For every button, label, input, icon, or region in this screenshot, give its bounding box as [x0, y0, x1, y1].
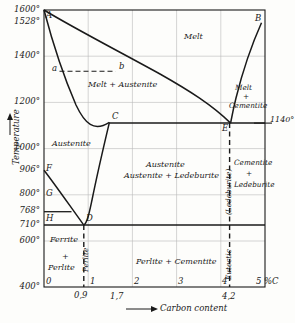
point-label-C: C: [112, 112, 119, 121]
y-tick-768: 768°: [4, 206, 40, 215]
region-ledeburite-vertical: (Ledeburite): [225, 169, 232, 215]
austenite-boundary-cd: [84, 122, 110, 225]
region-austenite-ledeburite: Austenite + Ledeburite: [124, 172, 219, 180]
x-axis-arrow-icon: [126, 306, 158, 312]
region-ferrite-perlite: Perlite: [48, 264, 75, 272]
region-melt-austenite: Melt + Austenite: [88, 81, 157, 89]
x-special-tick-09: 0,9: [74, 291, 88, 300]
y-tick-906: 906°: [4, 165, 40, 174]
region-austenite-left: Austenite: [52, 140, 91, 148]
y-tick-1400: 1400°: [4, 51, 40, 60]
region-austenite-right: Austenite: [146, 161, 185, 169]
point-label-D: D: [86, 214, 93, 223]
point-label-b: b: [119, 62, 124, 71]
point-label-G: G: [46, 189, 53, 198]
region-perlite-cementite: Perlite + Cementite: [136, 258, 217, 266]
y-tick-710: 710°: [4, 220, 40, 229]
x-tick-0: 0: [46, 277, 51, 286]
region-cementite-ledeburite-line1: Cementite: [234, 159, 272, 166]
region-melt-cementite-plus: +: [243, 93, 249, 100]
x-tick-2: 2: [134, 277, 139, 286]
y-tick-1600: 1600°: [4, 5, 40, 14]
point-label-B: B: [255, 14, 261, 23]
x-tick-5: 5: [256, 277, 261, 286]
point-label-E: E: [222, 124, 228, 133]
y-tick-600: 600°: [4, 236, 40, 245]
x-special-tick-17: 1,7: [110, 292, 124, 301]
region-cementite-ledeburite-plus: +: [246, 170, 252, 177]
phase-diagram-figure: 1600° 1528° 1400° 1200° 1000° 906° 800° …: [0, 0, 295, 323]
region-cementite-ledeburite-line2: Ledeburite: [234, 181, 275, 188]
x-axis-title: Carbon content: [160, 304, 227, 313]
region-melt-cementite-line2: Cementite: [229, 102, 267, 109]
x-axis-unit: %C: [264, 277, 279, 286]
x-special-tick-42: 4,2: [222, 292, 236, 301]
y-tick-400: 400°: [4, 282, 40, 291]
liquidus-curve-ae: [44, 10, 231, 123]
y-tick-800: 800°: [4, 189, 40, 198]
annotation-temp-1140: 1140°: [270, 116, 294, 124]
region-melt-cementite-line1: Melt: [235, 84, 252, 91]
point-label-H: H: [46, 214, 53, 223]
y-axis-title: Temperature: [12, 109, 21, 165]
point-label-A: A: [46, 11, 52, 20]
region-eutectic-vertical: Eutectic: [225, 249, 232, 280]
point-label-a: a: [52, 64, 57, 73]
y-tick-1200: 1200°: [4, 97, 40, 106]
point-label-F: F: [46, 164, 52, 173]
grid-lines: [44, 10, 265, 287]
x-tick-3: 3: [178, 277, 183, 286]
region-perlite-vertical: Perlite: [82, 248, 89, 272]
y-tick-1528: 1528°: [4, 17, 40, 26]
y-tick-1000: 1000°: [4, 143, 40, 152]
region-ferrite-plus: +: [62, 253, 69, 261]
region-melt: Melt: [184, 33, 203, 41]
region-ferrite: Ferrite: [50, 236, 78, 244]
x-tick-1: 1: [90, 277, 95, 286]
